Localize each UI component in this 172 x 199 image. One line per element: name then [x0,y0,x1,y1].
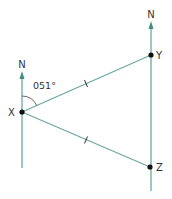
north-line-y: N [147,9,154,191]
point-label-z: Z [156,162,163,173]
angle-arc [22,96,37,106]
point-label-x: X [8,107,15,118]
segment-xz [22,112,150,167]
bearing-diagram: N N 051° X Y Z [0,0,172,199]
point-y [148,52,153,57]
point-x [19,109,24,114]
point-z [147,164,152,169]
north-label-y: N [147,9,154,20]
north-label-x: N [18,59,25,70]
angle-label: 051° [33,80,56,91]
diagram-canvas: N N 051° X Y Z [0,0,172,199]
north-arrow-icon [20,71,25,79]
point-label-y: Y [155,50,163,61]
north-arrow-icon [149,21,154,29]
